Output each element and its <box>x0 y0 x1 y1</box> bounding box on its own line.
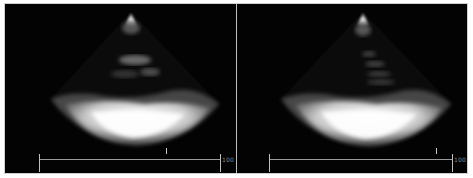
scale-tick-right-end <box>452 154 453 172</box>
scale-tick-left-start <box>39 154 40 172</box>
ultrasound-sector-right <box>237 4 467 173</box>
scale-bar-right <box>269 159 453 160</box>
scale-tick-left-end <box>220 154 221 172</box>
ultrasound-panel-left: 100 <box>5 4 236 173</box>
scale-label-right: 100 <box>454 156 466 163</box>
scale-tick-right-start <box>269 154 270 172</box>
ultrasound-panel-right: 100 <box>237 4 467 173</box>
ultrasound-sector-left <box>5 4 236 173</box>
image-frame: 100 <box>4 3 468 174</box>
scale-label-left: 100 <box>222 156 234 163</box>
position-marker-left <box>166 148 167 154</box>
position-marker-right <box>436 148 437 154</box>
scale-bar-left <box>39 159 221 160</box>
